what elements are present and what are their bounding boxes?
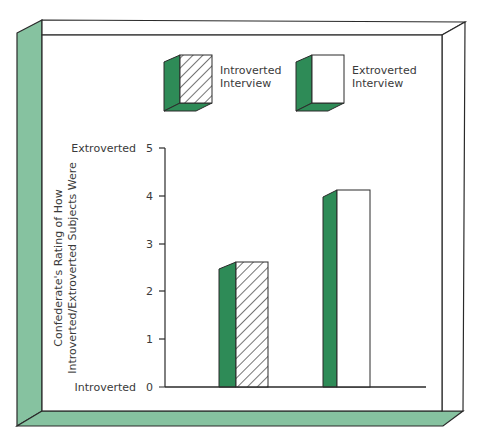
bar-extroverted-interview [323,190,370,387]
y-tick-label: 5 [146,142,153,155]
y-anchor-label-bottom: Introverted [75,381,136,394]
legend-swatch-hatched [180,55,212,103]
frame-right-panel [442,22,465,411]
bar-front-hatched [236,262,268,387]
y-axis-title-line2: Introverted/Extroverted Subjects Were [66,162,79,374]
y-tick-label: 4 [146,190,153,203]
frame-left-panel [17,20,42,426]
y-axis-title: Confederate's Rating of How Introverted/… [52,162,79,374]
legend-label-line1: Introverted [220,64,281,77]
legend-label-line2: Interview [352,77,403,90]
y-axis-title-line1: Confederate's Rating of How [52,189,65,346]
y-tick-label: 2 [146,285,153,298]
bar-introverted-interview [219,262,268,387]
legend-swatch-side [164,55,180,111]
legend-swatch-white [312,55,344,103]
y-anchor-label-top: Extroverted [71,142,136,155]
bar-front-white [337,190,370,387]
bar-side [219,262,236,387]
chart-figure: Introverted Interview Extroverted Interv… [0,0,483,441]
legend-label-line2: Interview [220,77,271,90]
frame-top-panel [42,20,465,35]
frame-bottom-panel [17,411,463,426]
y-tick-label: 3 [146,238,153,251]
legend-label-line1: Extroverted [352,64,417,77]
legend-swatch-side [296,55,312,111]
bar-side [323,190,337,387]
y-tick-label: 1 [146,333,153,346]
y-tick-label: 0 [146,381,153,394]
